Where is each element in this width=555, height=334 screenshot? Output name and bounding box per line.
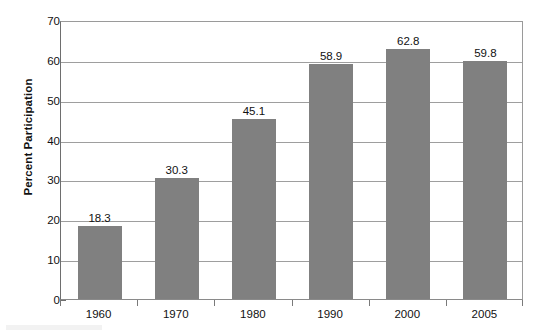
x-axis-tick-mark	[60, 300, 61, 306]
bar	[232, 119, 276, 299]
x-axis-tick-mark	[522, 300, 523, 306]
gridline	[61, 102, 522, 103]
gridline	[61, 142, 522, 143]
y-axis-tick-label: 10	[16, 254, 60, 266]
bar	[309, 64, 353, 299]
x-axis-tick-mark	[369, 300, 370, 306]
bar	[155, 178, 199, 299]
gridline	[61, 181, 522, 182]
gridline	[61, 261, 522, 262]
x-axis-tick-label: 1960	[86, 308, 112, 320]
x-axis-tick-label: 2000	[394, 308, 420, 320]
y-axis-ticks: 010203040506070	[0, 21, 60, 300]
bar-value-label: 30.3	[166, 164, 188, 176]
y-axis-tick-label: 50	[16, 95, 60, 107]
x-axis-tick-label: 1970	[163, 308, 189, 320]
x-axis: 196019701980199020002005	[60, 300, 523, 334]
y-axis-tick-label: 60	[16, 55, 60, 67]
bar-value-label: 59.8	[474, 47, 496, 59]
x-axis-tick-label: 1990	[317, 308, 343, 320]
gridline	[61, 221, 522, 222]
bar	[386, 49, 430, 299]
gridline	[61, 62, 522, 63]
x-axis-tick-label: 1980	[240, 308, 266, 320]
y-axis-tick-label: 0	[16, 294, 60, 306]
bar	[78, 226, 122, 299]
x-axis-tick-mark	[446, 300, 447, 306]
bar-value-label: 58.9	[320, 50, 342, 62]
bar	[463, 61, 507, 299]
y-axis-tick-label: 40	[16, 135, 60, 147]
x-axis-tick-mark	[214, 300, 215, 306]
bar-value-label: 18.3	[88, 212, 110, 224]
x-axis-tick-mark	[292, 300, 293, 306]
bar-value-label: 45.1	[243, 105, 265, 117]
y-axis-tick-label: 70	[16, 15, 60, 27]
x-axis-tick-label: 2005	[472, 308, 498, 320]
x-axis-tick-mark	[137, 300, 138, 306]
page-edge-artifact	[6, 325, 102, 330]
y-axis-tick-label: 20	[16, 214, 60, 226]
y-axis-tick-label: 30	[16, 174, 60, 186]
bar-chart: Percent Participation 010203040506070 18…	[0, 0, 555, 334]
plot-area: 18.330.345.158.962.859.8	[60, 21, 523, 300]
bar-value-label: 62.8	[397, 35, 419, 47]
